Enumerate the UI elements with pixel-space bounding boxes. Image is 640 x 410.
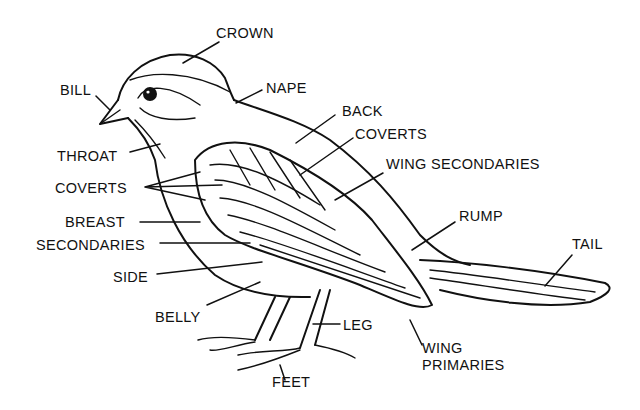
label-belly: BELLY bbox=[155, 309, 201, 325]
label-rump: RUMP bbox=[459, 208, 503, 224]
label-tail: TAIL bbox=[572, 236, 603, 252]
label-leg: LEG bbox=[343, 317, 373, 333]
bird-legs bbox=[198, 290, 355, 370]
label-side: SIDE bbox=[113, 269, 148, 285]
label-wing-secondaries: WING SECONDARIES bbox=[386, 156, 540, 172]
label-wing-primaries-line2: PRIMARIES bbox=[422, 357, 504, 373]
label-back: BACK bbox=[342, 103, 383, 119]
bird-anatomy-diagram: CROWN BILL NAPE BACK COVERTS WING SECOND… bbox=[0, 0, 640, 410]
bird-tail bbox=[420, 260, 610, 305]
bird-illustration bbox=[0, 0, 640, 410]
label-wing-primaries: WING PRIMARIES bbox=[422, 340, 504, 374]
label-bill: BILL bbox=[60, 82, 91, 98]
label-wing-primaries-line1: WING bbox=[422, 340, 463, 356]
label-nape: NAPE bbox=[266, 80, 307, 96]
label-crown: CROWN bbox=[216, 25, 274, 41]
label-throat: THROAT bbox=[57, 148, 117, 164]
label-coverts-left: COVERTS bbox=[55, 180, 127, 196]
label-coverts-upper: COVERTS bbox=[355, 126, 427, 142]
label-feet: FEET bbox=[272, 374, 310, 390]
label-secondaries: SECONDARIES bbox=[36, 237, 145, 253]
label-breast: BREAST bbox=[65, 214, 125, 230]
